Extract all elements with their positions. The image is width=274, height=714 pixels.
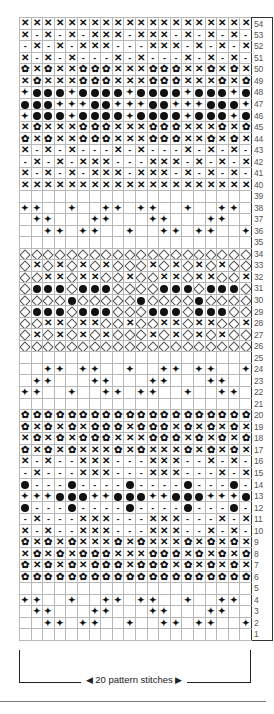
flower-icon: ✿ [160,410,168,421]
diamond-star-icon: ✦ [195,226,203,236]
stitch-cell-open-diamond [112,329,124,341]
stitch-cell-diamond-star: ✦ [205,617,217,629]
dash-icon: - [221,503,224,513]
open-diamond-icon [66,260,77,271]
stitch-cell-cross: ✕ [170,525,182,537]
stitch-cell-dash: - [135,156,147,168]
stitch-cell-cross: ✕ [89,456,101,468]
stitch-cell-dash: - [240,29,252,41]
stitch-cell-cross: ✕ [228,433,240,445]
diamond-star-icon: ✦ [184,203,192,213]
stitch-cell-blank [182,583,194,595]
row-number: 43 [251,144,272,156]
stitch-cell-cross: ✕ [31,513,43,525]
diamond-star-icon: ✦ [218,376,226,386]
stitch-cell-cross: ✕ [54,559,66,571]
stitch-cell-blank [31,225,43,237]
flower-icon: ✿ [21,421,29,432]
cross-icon: ✕ [126,317,134,328]
stitch-cell-diamond-star: ✦ [170,225,182,237]
cross-icon: ✕ [21,548,29,559]
stitch-cell-diamond-star: ✦ [159,606,171,618]
cross-icon: ✕ [218,133,226,144]
stitch-cell-flower: ✿ [20,410,32,422]
stitch-cell-dash: - [77,167,89,179]
flower-icon: ✿ [56,433,64,444]
diamond-star-icon: ✦ [91,226,99,236]
stitch-cell-dot [159,306,171,318]
cross-icon: ✕ [160,536,168,547]
row-number: 1 [251,629,272,641]
stitch-cell-cross: ✕ [170,271,182,283]
stitch-cell-dash: - [31,52,43,64]
stitch-cell-flower: ✿ [31,75,43,87]
stitch-cell-cross: ✕ [205,75,217,87]
stitch-cell-cross: ✕ [135,144,147,156]
stitch-cell-cross: ✕ [228,525,240,537]
stitch-cell-flower: ✿ [112,559,124,571]
cross-icon: ✕ [102,444,110,455]
stitch-cell-cross: ✕ [77,41,89,53]
stitch-cell-flower: ✿ [159,559,171,571]
stitch-cell-cross: ✕ [77,444,89,456]
stitch-cell-dash: - [182,456,194,468]
stitch-cell-cross: ✕ [43,121,55,133]
stitch-cell-flower: ✿ [147,75,159,87]
flower-icon: ✿ [68,444,76,455]
open-diamond-icon [89,295,100,306]
dash-icon: - [244,53,247,63]
open-diamond-icon [240,307,251,318]
diamond-star-icon: ✦ [242,226,250,236]
row-number: 16 [251,456,272,468]
left-arrow-icon: ◀ [86,675,93,685]
cross-icon: ✕ [33,329,41,340]
cross-icon: ✕ [44,121,52,132]
stitch-cell-blank [31,583,43,595]
open-diamond-icon [31,249,42,260]
stitch-cell-diamond-star: ✦ [124,110,136,122]
flower-icon: ✿ [68,410,76,421]
stitch-cell-cross: ✕ [159,513,171,525]
stitch-cell-cross: ✕ [217,329,229,341]
dot-icon [68,297,76,305]
stitch-cell-cross: ✕ [182,167,194,179]
cross-icon: ✕ [56,179,64,190]
stitch-cell-blank [31,398,43,410]
open-diamond-icon [228,330,239,341]
cross-icon: ✕ [242,156,250,167]
stitch-cell-blank [217,398,229,410]
diamond-star-icon: ✦ [79,226,87,236]
cross-icon: ✕ [44,525,52,536]
stitch-cell-dot [240,110,252,122]
cross-icon: ✕ [184,75,192,86]
stitch-cell-flower: ✿ [159,133,171,145]
stitch-cell-blank [77,606,89,618]
stitch-cell-flower: ✿ [89,410,101,422]
chart-row: ✿✕✿✕✿✕✕✕✿✕✿✕✕✕✿✕✿✕✿✕9 [20,536,273,548]
stitch-cell-cross: ✕ [217,64,229,76]
dot-icon [184,504,192,512]
open-diamond-icon [112,272,123,283]
stitch-cell-diamond-star: ✦ [217,594,229,606]
dash-icon: - [140,468,143,478]
stitch-cell-cross: ✕ [101,29,113,41]
diamond-star-icon: ✦ [195,618,203,628]
stitch-cell-flower: ✿ [228,421,240,433]
stitch-cell-diamond-star: ✦ [43,375,55,387]
cross-icon: ✕ [149,167,157,178]
diamond-star-icon: ✦ [137,99,145,109]
stitch-cell-flower: ✿ [31,548,43,560]
stitch-cell-blank [112,363,124,375]
flower-icon: ✿ [91,571,99,582]
stitch-cell-open-diamond [77,294,89,306]
stitch-cell-dash: - [101,502,113,514]
stitch-cell-open-diamond [205,260,217,272]
stitch-cell-cross: ✕ [89,29,101,41]
stitch-cell-cross: ✕ [124,536,136,548]
open-diamond-icon [20,249,31,260]
dot-icon [160,285,168,293]
stitch-cell-dot [170,490,182,502]
stitch-cell-cross: ✕ [147,536,159,548]
cross-icon: ✕ [207,271,215,282]
flower-icon: ✿ [184,536,192,547]
